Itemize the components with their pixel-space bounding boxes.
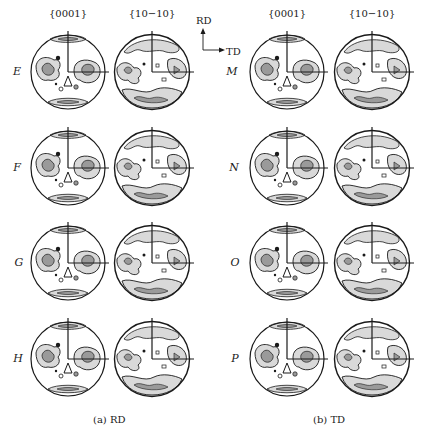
pole-figure-o-10-10 (335, 222, 415, 301)
pole-figure-n-10-10 (335, 127, 415, 206)
pole-figure-g-10-10 (115, 222, 195, 301)
pole-figure-p-0001 (250, 318, 328, 396)
rd-td-axis-indicator (201, 28, 226, 53)
pole-figure-f-10-10 (115, 127, 195, 206)
pole-figure-f-0001 (31, 127, 109, 205)
pole-figure-o-0001 (250, 222, 328, 300)
pole-figure-m-10-10 (335, 31, 415, 110)
pole-figure-e-10-10 (115, 31, 195, 110)
pole-figure-g-0001 (31, 222, 109, 300)
pole-figure-n-0001 (250, 127, 328, 205)
pole-figure-m-0001 (250, 31, 328, 109)
pole-figure-h-0001 (31, 318, 109, 396)
pole-figure-p-10-10 (335, 318, 415, 397)
pole-figure-canvas (0, 0, 431, 446)
pole-figure-e-0001 (31, 31, 109, 109)
pole-figure-h-10-10 (115, 318, 195, 397)
